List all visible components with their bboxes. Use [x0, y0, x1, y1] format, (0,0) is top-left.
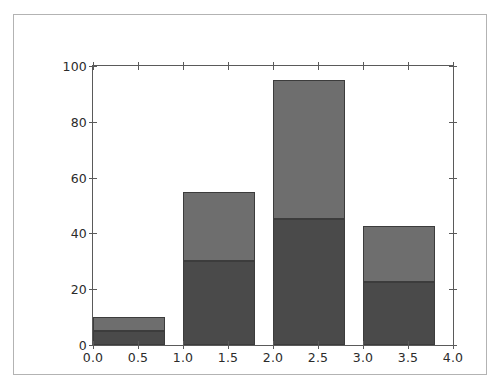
- y-tick-label: 20: [71, 282, 87, 297]
- x-tick-mark-inner: [453, 341, 454, 345]
- x-tick-mark: [93, 345, 94, 349]
- bar-segment-lower: [183, 261, 255, 345]
- y-tick-mark-right: [453, 178, 457, 179]
- y-tick-mark-right-inner: [449, 233, 453, 234]
- bar: [363, 226, 435, 345]
- bar-segment-upper: [363, 226, 435, 282]
- bar: [93, 317, 165, 345]
- y-tick-label: 60: [71, 170, 87, 185]
- bar-segment-upper: [93, 317, 165, 331]
- x-tick-mark-top-inner: [273, 66, 274, 70]
- bar: [183, 192, 255, 345]
- x-tick-label: 3.5: [398, 350, 418, 365]
- y-tick-mark-right: [453, 289, 457, 290]
- x-tick-mark-inner: [228, 341, 229, 345]
- x-tick-label: 1.5: [218, 350, 238, 365]
- x-tick-mark: [183, 345, 184, 349]
- y-tick-mark-right: [453, 233, 457, 234]
- x-tick-mark-inner: [93, 341, 94, 345]
- x-tick-mark: [228, 345, 229, 349]
- x-tick-mark-inner: [273, 341, 274, 345]
- x-tick-mark: [273, 345, 274, 349]
- x-tick-label: 1.0: [173, 350, 193, 365]
- x-tick-label: 3.0: [353, 350, 373, 365]
- bar-segment-lower: [363, 282, 435, 345]
- plot-axes: 0204060801000.00.51.01.52.02.53.03.54.0: [92, 65, 454, 346]
- y-tick-mark-inner: [93, 178, 97, 179]
- x-tick-mark-top-inner: [453, 66, 454, 70]
- x-tick-mark-top-inner: [363, 66, 364, 70]
- bar-segment-lower: [273, 219, 345, 345]
- x-tick-mark-inner: [318, 341, 319, 345]
- x-tick-mark: [138, 345, 139, 349]
- x-tick-mark-top-inner: [138, 66, 139, 70]
- bar-segment-lower: [93, 331, 165, 345]
- x-tick-label: 0.5: [128, 350, 148, 365]
- x-tick-label: 2.0: [263, 350, 283, 365]
- y-tick-mark-inner: [93, 289, 97, 290]
- y-tick-label: 100: [63, 59, 87, 74]
- x-tick-label: 2.5: [308, 350, 328, 365]
- x-tick-label: 4.0: [443, 350, 463, 365]
- x-tick-mark: [453, 345, 454, 349]
- x-tick-label: 0.0: [83, 350, 103, 365]
- x-tick-mark-inner: [408, 341, 409, 345]
- x-tick-mark: [318, 345, 319, 349]
- y-tick-label: 40: [71, 226, 87, 241]
- x-tick-mark: [408, 345, 409, 349]
- x-tick-mark-top-inner: [93, 66, 94, 70]
- bar: [273, 80, 345, 345]
- x-tick-mark: [363, 345, 364, 349]
- y-tick-mark-right: [453, 122, 457, 123]
- y-tick-mark-right-inner: [449, 289, 453, 290]
- y-tick-mark-right-inner: [449, 178, 453, 179]
- x-tick-mark-top-inner: [183, 66, 184, 70]
- plot-area: [93, 66, 453, 345]
- bar-segment-upper: [273, 80, 345, 220]
- x-tick-mark-inner: [363, 341, 364, 345]
- figure-frame: 0204060801000.00.51.01.52.02.53.03.54.0: [13, 14, 487, 375]
- x-tick-mark-top-inner: [408, 66, 409, 70]
- x-tick-mark-top-inner: [228, 66, 229, 70]
- x-tick-mark-top-inner: [318, 66, 319, 70]
- figure-canvas: 0204060801000.00.51.01.52.02.53.03.54.0: [0, 0, 503, 389]
- y-tick-mark-right-inner: [449, 122, 453, 123]
- y-tick-mark-inner: [93, 233, 97, 234]
- y-tick-label: 80: [71, 114, 87, 129]
- x-tick-mark-inner: [138, 341, 139, 345]
- bar-segment-upper: [183, 192, 255, 262]
- y-tick-mark-inner: [93, 122, 97, 123]
- x-tick-mark-inner: [183, 341, 184, 345]
